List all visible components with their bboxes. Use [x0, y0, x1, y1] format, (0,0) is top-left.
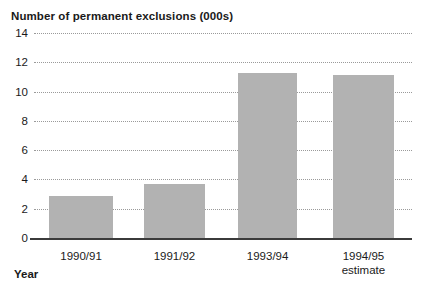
bar-series [34, 33, 412, 238]
y-axis-tick-label: 2 [22, 203, 28, 215]
bar [333, 75, 394, 238]
x-axis-tick-label: 1990/91 [31, 249, 131, 263]
chart-title: Number of permanent exclusions (000s) [11, 10, 233, 22]
x-tick-line-1: 1994/95 [343, 250, 385, 262]
x-axis-tick-label: 1994/95estimate [313, 249, 413, 277]
y-axis-tick-label: 10 [15, 86, 28, 98]
x-axis-line [30, 238, 412, 240]
y-axis-tick-label: 6 [22, 144, 28, 156]
y-axis-tick-label: 8 [22, 115, 28, 127]
bar [238, 73, 297, 238]
y-axis-tick-label: 0 [22, 232, 28, 244]
y-axis-tick-label: 14 [15, 27, 28, 39]
y-axis-tick-label: 4 [22, 173, 28, 185]
plot-area: 02468101214 [34, 33, 412, 238]
x-tick-line-2: estimate [313, 263, 413, 277]
chart-figure: Number of permanent exclusions (000s) 02… [0, 0, 426, 294]
x-axis-tick-label: 1991/92 [124, 249, 224, 263]
x-tick-line-1: 1990/91 [60, 250, 102, 262]
x-tick-line-1: 1993/94 [247, 250, 289, 262]
y-axis-tick-label: 12 [15, 56, 28, 68]
bar [49, 196, 113, 238]
bar [144, 184, 205, 238]
x-axis-title: Year [14, 268, 38, 280]
x-tick-line-1: 1991/92 [154, 250, 196, 262]
x-axis-tick-label: 1993/94 [218, 249, 318, 263]
